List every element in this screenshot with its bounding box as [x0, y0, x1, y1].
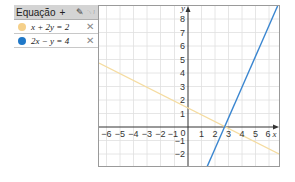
- svg-text:5: 5: [180, 55, 185, 65]
- svg-text:x: x: [272, 129, 277, 139]
- color-dot-icon[interactable]: [18, 23, 26, 31]
- delete-icon[interactable]: ✕: [86, 35, 94, 46]
- equation-label: Equação: [16, 7, 55, 18]
- svg-text:7: 7: [180, 28, 185, 38]
- svg-text:−2: −2: [155, 129, 165, 139]
- pointer-icon[interactable]: ☜: [87, 7, 95, 17]
- svg-text:8: 8: [180, 14, 185, 24]
- svg-text:y: y: [180, 3, 185, 13]
- delete-icon[interactable]: ✕: [86, 21, 94, 32]
- svg-text:4: 4: [180, 68, 185, 78]
- svg-text:3: 3: [226, 129, 231, 139]
- svg-text:2: 2: [180, 95, 185, 105]
- svg-text:1: 1: [199, 129, 204, 139]
- svg-text:4: 4: [239, 129, 244, 139]
- svg-text:6: 6: [265, 129, 270, 139]
- svg-text:−1: −1: [175, 136, 185, 146]
- algebra-panel: Equação + ✎ ☜ x + 2y = 2 ✕ 2x − y = 4 ✕: [14, 5, 99, 167]
- svg-text:5: 5: [253, 129, 258, 139]
- pencil-icon[interactable]: ✎: [76, 7, 84, 17]
- svg-text:−5: −5: [115, 129, 125, 139]
- algebra-header: Equação + ✎ ☜: [14, 5, 98, 20]
- svg-text:−6: −6: [101, 129, 111, 139]
- equation-row[interactable]: 2x − y = 4 ✕: [14, 34, 98, 48]
- equation-text[interactable]: x + 2y = 2: [31, 22, 69, 32]
- svg-text:2: 2: [212, 129, 217, 139]
- svg-text:−2: −2: [175, 149, 185, 159]
- svg-text:3: 3: [180, 82, 185, 92]
- add-equation-button[interactable]: +: [59, 7, 65, 18]
- equation-row[interactable]: x + 2y = 2 ✕: [14, 20, 98, 34]
- svg-text:1: 1: [180, 109, 185, 119]
- equation-text[interactable]: 2x − y = 4: [31, 36, 69, 46]
- svg-text:6: 6: [180, 41, 185, 51]
- color-dot-icon[interactable]: [18, 37, 26, 45]
- svg-text:−3: −3: [142, 129, 152, 139]
- svg-text:−4: −4: [128, 129, 138, 139]
